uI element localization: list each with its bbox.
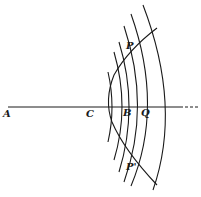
label-B: B xyxy=(122,107,131,118)
label-Q: Q xyxy=(141,107,150,118)
diagram-canvas: A C B Q P P' xyxy=(0,0,201,197)
label-P-prime: P' xyxy=(125,161,137,172)
label-A: A xyxy=(2,108,11,119)
arc-6 xyxy=(143,5,165,190)
label-C: C xyxy=(86,108,94,119)
label-P: P xyxy=(125,40,134,51)
